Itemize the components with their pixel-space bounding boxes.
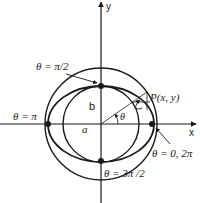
point-arrow <box>136 100 142 109</box>
theta-zero-pointer <box>156 128 170 144</box>
angle-arc <box>115 114 118 124</box>
radius-a-label: a <box>82 123 88 135</box>
ellipse-parametric-diagram: x y θ a b P(x, y) θ = π/2 θ = π θ = 0, 2… <box>0 0 200 203</box>
theta-zero-label: θ = 0, 2π <box>152 147 193 159</box>
theta-half-pi-label: θ = π/2 <box>36 60 69 72</box>
theta-half-pi-pointer <box>66 74 97 83</box>
point-theta-half-pi <box>98 83 104 89</box>
theta-three-half-pi-label: θ = 3π /2 <box>104 167 145 179</box>
point-theta-three-half-pi <box>98 158 104 164</box>
point-p-label: P(x, y) <box>149 91 180 104</box>
y-axis-label: y <box>106 1 111 12</box>
point-theta-pi <box>45 121 51 127</box>
x-axis-label: x <box>189 127 194 138</box>
angle-label: θ <box>120 111 125 122</box>
theta-pi-label: θ = π <box>13 110 37 122</box>
point-theta-zero <box>149 121 155 127</box>
radius-b-label: b <box>89 100 95 112</box>
